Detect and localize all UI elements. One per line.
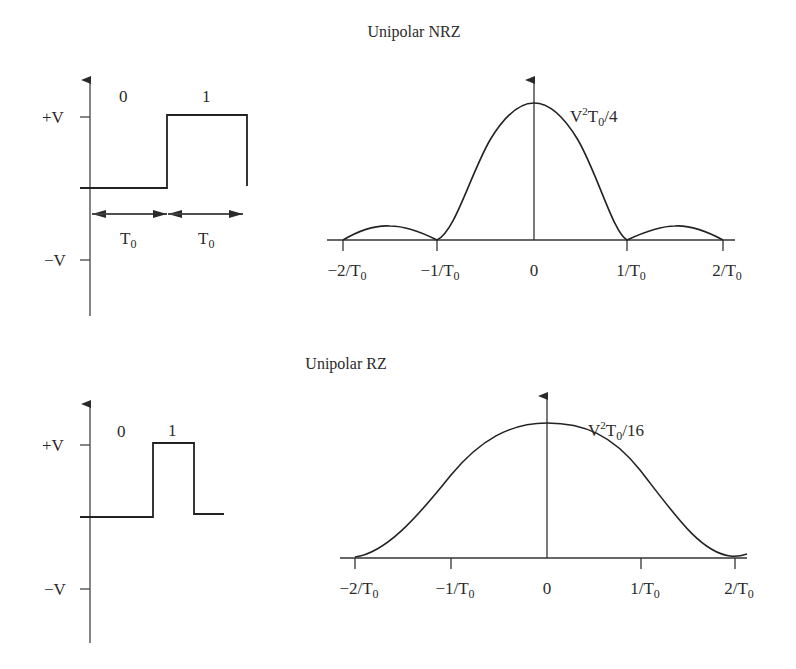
rz-x-tick-label: −1/T0	[435, 580, 474, 600]
nrz-peak-label: V2T0/4	[570, 106, 617, 128]
nrz-bit-label-0: 0	[119, 88, 128, 105]
nrz-waveform-plot	[80, 80, 247, 316]
nrz-label-plus-v: +V	[42, 109, 64, 126]
rz-psd-curve	[355, 423, 747, 557]
nrz-x-tick-label: −2/T0	[327, 262, 366, 282]
rz-label-minus-v: −V	[44, 581, 66, 598]
rz-spectrum-plot	[340, 396, 747, 569]
nrz-x-tick-label: −1/T0	[420, 262, 459, 282]
panel-title-nrz: Unipolar NRZ	[368, 24, 461, 40]
rz-peak-label: V2T0/16	[588, 420, 644, 442]
rz-x-tick-label: 2/T0	[724, 580, 754, 600]
rz-x-tick-label: 1/T0	[630, 580, 660, 600]
nrz-x-tick-label: 1/T0	[616, 262, 646, 282]
nrz-label-minus-v: −V	[44, 252, 66, 269]
nrz-x-tick-label: 2/T0	[712, 262, 742, 282]
nrz-duration-label-2: T0	[198, 230, 214, 250]
rz-signal-trace	[80, 443, 224, 517]
rz-bit-label-1: 1	[168, 422, 177, 439]
rz-waveform-plot	[80, 404, 224, 643]
nrz-x-tick-label: 0	[530, 262, 539, 279]
nrz-bit-label-1: 1	[202, 88, 211, 105]
nrz-signal-trace	[80, 115, 247, 188]
nrz-spectrum-plot	[327, 80, 735, 251]
rz-label-plus-v: +V	[42, 437, 64, 454]
panel-title-rz: Unipolar RZ	[305, 356, 386, 372]
rz-x-tick-label: −2/T0	[339, 580, 378, 600]
nrz-psd-curve	[343, 103, 723, 240]
rz-x-tick-label: 0	[543, 580, 552, 597]
rz-bit-label-0: 0	[117, 423, 126, 440]
nrz-duration-label-1: T0	[120, 230, 136, 250]
